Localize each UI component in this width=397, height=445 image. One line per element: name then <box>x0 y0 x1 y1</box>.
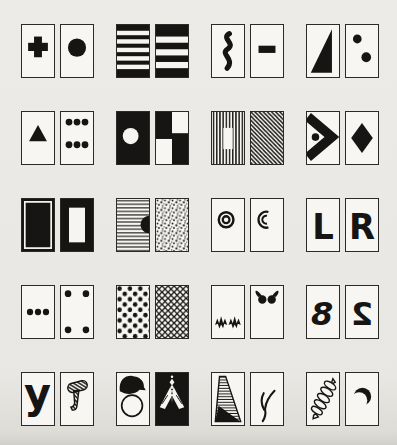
card-row: 82 <box>21 285 397 339</box>
card-letter-L: L <box>306 198 340 252</box>
card-pair <box>116 285 189 339</box>
svg-text:8: 8 <box>311 295 333 333</box>
card-pair <box>306 372 379 426</box>
card-stipple <box>155 198 189 252</box>
card-crescent-moon <box>345 372 379 426</box>
card-vertical-stripes-window <box>211 111 245 165</box>
card-pair <box>116 24 189 78</box>
svg-text:R: R <box>349 207 375 247</box>
card-concentric-rings <box>211 198 245 252</box>
card-row: LR <box>21 198 397 252</box>
card-vertical-squiggle <box>211 24 245 78</box>
svg-text:2: 2 <box>351 295 373 333</box>
card-board: LR82y <box>0 0 397 445</box>
card-letter-italic-8: 8 <box>306 285 340 339</box>
card-crosshatch-lattice <box>155 285 189 339</box>
card-concentric-arcs <box>250 198 284 252</box>
card-hatched-mallet <box>60 372 94 426</box>
card-pair <box>306 24 379 78</box>
card-diamond <box>345 111 379 165</box>
card-three-dots-row <box>21 285 55 339</box>
card-h-stripes-5 <box>116 24 150 78</box>
card-four-dots-corners <box>60 285 94 339</box>
card-pair <box>21 24 94 78</box>
card-pair <box>21 285 94 339</box>
card-pair: LR <box>306 198 379 252</box>
card-letter-R: R <box>345 198 379 252</box>
card-h-lines-notch <box>116 198 150 252</box>
card-pair <box>116 198 189 252</box>
card-two-dots-diagonal <box>345 24 379 78</box>
card-coil <box>306 372 340 426</box>
card-filled-circle <box>60 24 94 78</box>
card-pair <box>21 198 94 252</box>
card-pair <box>116 372 189 426</box>
card-circle-on-black <box>116 111 150 165</box>
card-row <box>21 24 397 78</box>
card-moth-on-black <box>155 372 189 426</box>
card-letter-mirrored-2: 2 <box>345 285 379 339</box>
card-row: y <box>21 372 397 426</box>
card-pair <box>211 24 284 78</box>
card-six-dots <box>60 111 94 165</box>
card-chevron-right-dot <box>306 111 340 165</box>
card-black-inset-frame <box>21 198 55 252</box>
card-thick-black-border <box>60 198 94 252</box>
card-minus-bar <box>250 24 284 78</box>
card-pair <box>306 111 379 165</box>
card-h-stripes-3 <box>155 24 189 78</box>
card-pair <box>211 372 284 426</box>
card-striped-wedge <box>211 372 245 426</box>
card-bird <box>116 372 150 426</box>
card-pair <box>21 111 94 165</box>
card-letter-lowercase-y: y <box>21 372 55 426</box>
card-zigzag-marks <box>211 285 245 339</box>
card-pair <box>116 111 189 165</box>
card-pair <box>211 111 284 165</box>
card-twig <box>250 372 284 426</box>
card-pair <box>211 285 284 339</box>
svg-text:y: y <box>24 373 51 418</box>
card-diagonal-stripes <box>250 111 284 165</box>
card-polka-dots <box>116 285 150 339</box>
card-half-filled-triangle <box>306 24 340 78</box>
card-pair: y <box>21 372 94 426</box>
card-checkerboard <box>155 111 189 165</box>
card-butterfly <box>250 285 284 339</box>
card-triangle-up <box>21 111 55 165</box>
card-pair: 82 <box>306 285 379 339</box>
card-pair <box>211 198 284 252</box>
svg-text:L: L <box>312 207 334 247</box>
card-plus <box>21 24 55 78</box>
card-row <box>21 111 397 165</box>
